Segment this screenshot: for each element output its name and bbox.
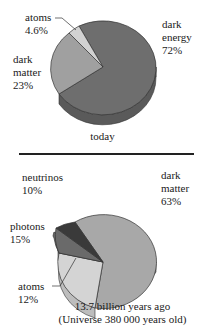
label-name: matter <box>13 66 41 79</box>
label-value: 72% <box>162 44 192 57</box>
caption-line: 13.7 billion years ago <box>40 300 205 313</box>
label-dark-energy-today: dark energy 72% <box>162 18 192 57</box>
divider <box>19 153 194 155</box>
pie-today <box>51 18 156 125</box>
label-dark-matter-today: dark matter 23% <box>13 53 41 92</box>
label-atoms-today: atoms 4.6% <box>25 11 51 37</box>
label-name: dark <box>161 169 189 182</box>
label-value: 63% <box>161 195 189 208</box>
label-photons-early: photons 15% <box>10 220 45 246</box>
label-name: dark <box>13 53 41 66</box>
label-name: atoms <box>18 280 44 293</box>
caption-line: (Universe 380 000 years old) <box>40 313 205 326</box>
label-name: dark <box>162 18 192 31</box>
label-value: 10% <box>22 184 63 197</box>
label-name: energy <box>162 31 192 44</box>
caption-early-universe: 13.7 billion years ago (Universe 380 000… <box>40 300 205 326</box>
label-name: photons <box>10 220 45 233</box>
label-value: 15% <box>10 233 45 246</box>
label-name: atoms <box>25 11 51 24</box>
label-name: neutrinos <box>22 171 63 184</box>
caption-today: today <box>0 130 205 143</box>
label-value: 4.6% <box>25 24 51 37</box>
label-dark-matter-early: dark matter 63% <box>161 169 189 208</box>
label-value: 23% <box>13 79 41 92</box>
label-neutrinos-early: neutrinos 10% <box>22 171 63 197</box>
label-name: matter <box>161 182 189 195</box>
